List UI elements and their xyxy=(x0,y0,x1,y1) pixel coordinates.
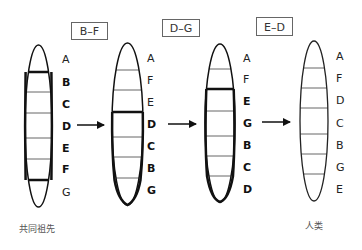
gene-label: G xyxy=(147,184,156,197)
gene-label: E xyxy=(243,95,251,108)
inversion-label: B–F xyxy=(80,25,99,38)
inversion-box-3: E–D xyxy=(257,18,293,36)
chromosome-inversion-diagram: B–F D–G E–D A B C D E F G xyxy=(0,0,362,250)
gene-label: D xyxy=(147,118,156,131)
gene-label: F xyxy=(62,163,70,176)
gene-label: A xyxy=(243,52,251,65)
inversion-box-1: B–F xyxy=(72,23,108,40)
gene-label: D xyxy=(243,183,252,196)
labels-stage-3: A F E G B C D xyxy=(243,52,252,196)
gene-label: C xyxy=(62,98,70,111)
gene-label: A xyxy=(336,50,344,63)
gene-label: D xyxy=(336,94,344,107)
gene-label: E xyxy=(147,96,154,109)
gene-label: B xyxy=(147,162,155,175)
gene-label: F xyxy=(147,74,153,87)
gene-label: B xyxy=(336,139,344,152)
caption-human: 人类 xyxy=(305,220,323,231)
labels-human: A F D C B G E xyxy=(336,50,345,196)
chromosome-stage-3 xyxy=(200,44,240,202)
caption-common-ancestor: 共同祖先 xyxy=(19,223,55,234)
inversion-label: D–G xyxy=(170,22,193,35)
gene-label: E xyxy=(62,142,70,155)
chromosome-human xyxy=(295,41,335,201)
chromosome-stage-2 xyxy=(105,43,150,205)
gene-label: B xyxy=(62,76,70,89)
gene-label: G xyxy=(62,186,71,199)
labels-ancestor: A B C D E F G xyxy=(62,53,71,199)
gene-label: C xyxy=(147,140,155,153)
chromosome-ancestor xyxy=(20,45,60,207)
gene-label: A xyxy=(62,53,70,66)
inversion-box-2: D–G xyxy=(163,20,200,37)
gene-label: E xyxy=(336,183,343,196)
gene-label: A xyxy=(147,52,155,65)
gene-label: B xyxy=(243,139,251,152)
gene-label: F xyxy=(336,72,342,85)
gene-label: C xyxy=(336,117,344,130)
gene-label: G xyxy=(336,161,345,174)
labels-stage-2: A F E D C B G xyxy=(147,52,156,197)
gene-label: C xyxy=(243,161,251,174)
gene-label: D xyxy=(62,120,71,133)
inversion-label: E–D xyxy=(264,21,285,34)
gene-label: G xyxy=(243,117,252,130)
gene-label: F xyxy=(243,73,249,86)
